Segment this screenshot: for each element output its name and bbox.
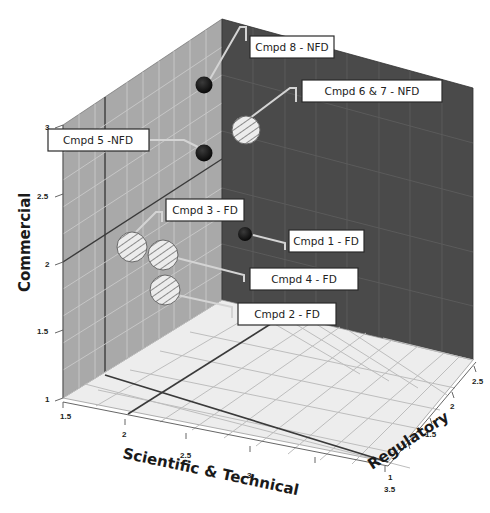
commercial-axis bbox=[55, 125, 63, 401]
callout-cmpd-8: Cmpd 8 - NFD bbox=[250, 36, 334, 58]
commercial-tick-2: 2 bbox=[45, 260, 50, 269]
callout-cmpd-6-7: Cmpd 6 & 7 - NFD bbox=[302, 80, 442, 102]
callout-cmpd-4: Cmpd 4 - FD bbox=[250, 268, 358, 290]
regulatory-tick-2-5: 2.5 bbox=[472, 377, 484, 386]
commercial-axis-title: Commercial bbox=[16, 193, 34, 292]
callout-cmpd-5-text: Cmpd 5 -NFD bbox=[63, 134, 133, 146]
regulatory-tick-1: 1 bbox=[388, 473, 393, 482]
regulatory-tick-2: 2 bbox=[450, 402, 455, 411]
chart-svg: 3 2.5 2 1.5 1 1.5 2 2.5 3 3.5 1 1.5 2 2.… bbox=[0, 0, 490, 513]
st-tick-2: 2 bbox=[122, 430, 127, 439]
st-tick-1-5: 1.5 bbox=[60, 412, 72, 421]
chart-3d-bubble: 3 2.5 2 1.5 1 1.5 2 2.5 3 3.5 1 1.5 2 2.… bbox=[0, 0, 490, 513]
marker-cmpd-5 bbox=[196, 145, 213, 162]
callout-cmpd-3: Cmpd 3 - FD bbox=[166, 199, 244, 221]
callout-cmpd-2-text: Cmpd 2 - FD bbox=[254, 308, 320, 320]
callout-cmpd-3-text: Cmpd 3 - FD bbox=[172, 204, 238, 216]
callout-cmpd-8-text: Cmpd 8 - NFD bbox=[255, 41, 328, 53]
callout-cmpd-2: Cmpd 2 - FD bbox=[238, 303, 336, 325]
st-axis-title: Scientific & Technical bbox=[121, 444, 300, 499]
marker-cmpd-2 bbox=[150, 275, 180, 305]
callout-cmpd-1-text: Cmpd 1 - FD bbox=[293, 235, 359, 247]
callout-cmpd-1: Cmpd 1 - FD bbox=[289, 230, 364, 252]
st-tick-3-5: 3.5 bbox=[384, 485, 396, 494]
marker-cmpd-4 bbox=[148, 240, 178, 270]
marker-cmpd-3 bbox=[117, 232, 147, 262]
marker-cmpd-8 bbox=[196, 77, 213, 94]
commercial-tick-1: 1 bbox=[45, 395, 50, 404]
callout-cmpd-6-7-text: Cmpd 6 & 7 - NFD bbox=[325, 85, 420, 97]
marker-cmpd-6-7 bbox=[232, 116, 260, 144]
commercial-tick-2-5: 2.5 bbox=[37, 192, 49, 201]
marker-cmpd-1 bbox=[238, 227, 252, 241]
commercial-tick-1-5: 1.5 bbox=[37, 327, 49, 336]
callout-cmpd-5: Cmpd 5 -NFD bbox=[48, 129, 149, 151]
callout-cmpd-4-text: Cmpd 4 - FD bbox=[271, 273, 337, 285]
